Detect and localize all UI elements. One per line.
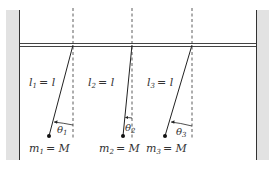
angle-label-3: θ3 [176,126,187,139]
length-label-1: l1= l [29,76,56,90]
angle-label-1: θ1 [57,124,68,137]
pendulum-diagram: l1= l l2= l l3= l θ1 θ2 θ3 m1= M m2= M m… [0,0,273,170]
pendulum-1-string [49,45,73,136]
pendulum-3-bob [163,134,167,138]
angle-label-2: θ2 [125,122,136,135]
left-wall [6,10,19,160]
mass-label-2: m2= M [99,142,141,156]
vertical-reference-lines [73,8,192,140]
horizontal-bar [20,44,256,47]
pendulum-3-string [165,45,192,136]
mass-label-1: m1= M [29,142,71,156]
length-label-2: l2= l [88,76,115,90]
pendulum-1-bob [47,134,51,138]
pendulum-2-bob [121,134,125,138]
pendulum-3 [163,45,192,138]
arrow-head-icon [125,116,128,119]
length-label-3: l3= l [147,76,174,90]
arrow-head-icon [171,120,175,124]
right-wall [256,10,269,160]
mass-label-3: m3= M [146,142,188,156]
